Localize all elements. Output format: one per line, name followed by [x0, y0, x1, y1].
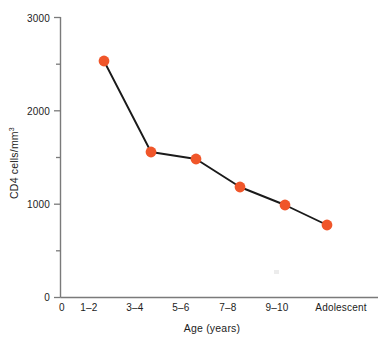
scan-artifact [274, 270, 279, 274]
y-axis-title-superscript: 3 [8, 127, 15, 131]
line-chart-plot [0, 0, 382, 350]
y-axis-title-text: CD4 cells/mm [8, 131, 20, 199]
x-tick-label-3-4: 3–4 [126, 302, 143, 313]
data-point-marker [99, 56, 110, 67]
data-point-marker [280, 200, 291, 211]
x-tick-label-5-6: 5–6 [172, 302, 189, 313]
data-line-series [104, 61, 327, 225]
x-tick-label-adolescent: Adolescent [315, 302, 366, 313]
x-tick-label-9-10: 9–10 [265, 302, 288, 313]
y-tick-label-3000: 3000 [22, 13, 50, 24]
x-tick-label-0: 0 [59, 302, 65, 313]
y-tick-label-2000: 2000 [22, 106, 50, 117]
data-point-marker [146, 147, 157, 158]
x-axis-title: Age (years) [184, 322, 240, 334]
data-point-marker [322, 220, 333, 231]
x-tick-label-7-8: 7–8 [219, 302, 236, 313]
data-point-marker [235, 182, 246, 193]
y-tick-label-1000: 1000 [22, 199, 50, 210]
x-tick-label-1-2: 1–2 [80, 302, 97, 313]
y-axis-title: CD4 cells/mm3 [8, 127, 20, 199]
data-point-markers [99, 56, 333, 231]
data-point-marker [191, 154, 202, 165]
chart-figure: 0 1000 2000 3000 0 1–2 3–4 5–6 7–8 9–10 … [0, 0, 382, 350]
y-tick-label-0: 0 [22, 292, 50, 303]
